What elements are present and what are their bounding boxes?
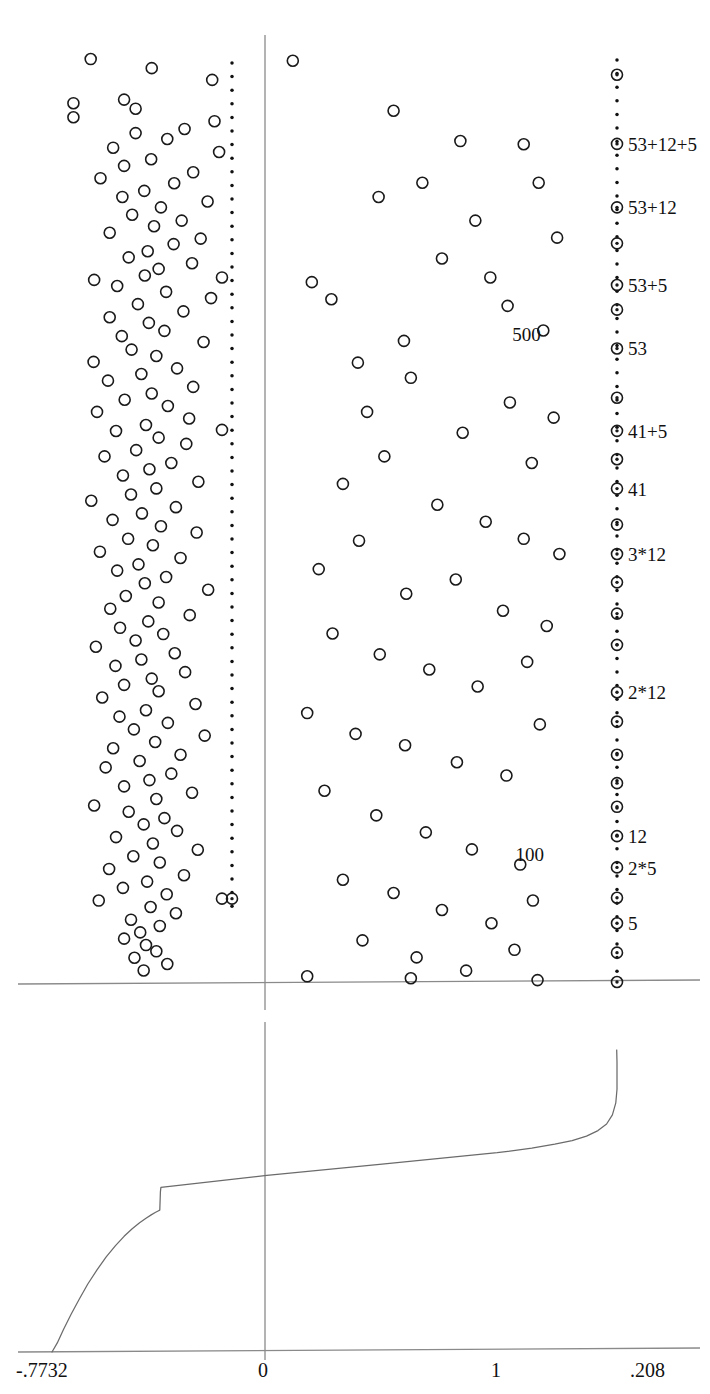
data-point bbox=[188, 381, 199, 392]
scatter-right-label-9: 2*5 bbox=[628, 859, 657, 878]
data-point bbox=[470, 215, 481, 226]
left-dotted-line-dot bbox=[230, 700, 234, 704]
data-point bbox=[138, 965, 149, 976]
data-point bbox=[504, 397, 515, 408]
data-point bbox=[139, 185, 150, 196]
data-point bbox=[102, 375, 113, 386]
data-point bbox=[139, 578, 150, 589]
data-point bbox=[126, 489, 137, 500]
x-axis-tick-label-2: 1 bbox=[491, 1360, 501, 1380]
left-dotted-line-dot bbox=[230, 75, 234, 79]
marked-data-point-center bbox=[615, 347, 618, 350]
x-axis-tick-label-1: 0 bbox=[258, 1360, 268, 1380]
left-dotted-line-dot bbox=[230, 510, 234, 514]
data-point bbox=[146, 673, 157, 684]
marked-data-point-center bbox=[615, 206, 618, 209]
data-point bbox=[371, 810, 382, 821]
data-point bbox=[151, 794, 162, 805]
data-point bbox=[202, 196, 213, 207]
data-point bbox=[552, 232, 563, 243]
chart-canvas bbox=[0, 0, 710, 1394]
left-dotted-line-dot bbox=[230, 456, 234, 460]
data-point bbox=[68, 98, 79, 109]
data-point bbox=[119, 94, 130, 105]
data-point bbox=[554, 548, 565, 559]
data-point bbox=[153, 263, 164, 274]
data-point bbox=[135, 927, 146, 938]
data-point bbox=[119, 781, 130, 792]
data-point bbox=[175, 749, 186, 760]
data-point bbox=[159, 325, 170, 336]
scatter-inner-label-0: 500 bbox=[512, 325, 541, 344]
marked-data-point-center bbox=[615, 896, 618, 899]
data-point bbox=[99, 451, 110, 462]
data-point bbox=[354, 535, 365, 546]
right-dotted-line-dot bbox=[615, 820, 619, 824]
data-point bbox=[105, 603, 116, 614]
data-point bbox=[374, 649, 385, 660]
data-point bbox=[214, 147, 225, 158]
marked-data-point-center bbox=[615, 242, 618, 245]
right-dotted-line-dot bbox=[615, 888, 619, 892]
data-point bbox=[111, 832, 122, 843]
data-point bbox=[187, 787, 198, 798]
scatter-right-label-2: 53+5 bbox=[628, 276, 667, 295]
left-dotted-line-dot bbox=[230, 265, 234, 269]
right-dotted-line-dot bbox=[615, 357, 619, 361]
right-dotted-line-dot bbox=[615, 385, 619, 389]
data-point bbox=[451, 757, 462, 768]
data-point bbox=[417, 177, 428, 188]
left-dotted-line-dot bbox=[230, 864, 234, 868]
data-point bbox=[162, 959, 173, 970]
data-point bbox=[522, 656, 533, 667]
data-point bbox=[184, 610, 195, 621]
data-point bbox=[193, 476, 204, 487]
data-point bbox=[89, 274, 100, 285]
data-point bbox=[357, 935, 368, 946]
data-point bbox=[424, 664, 435, 675]
right-line-terminal-point-center bbox=[615, 980, 618, 983]
data-point bbox=[162, 717, 173, 728]
data-point bbox=[199, 730, 210, 741]
data-point bbox=[153, 686, 164, 697]
data-point bbox=[184, 413, 195, 424]
data-point bbox=[139, 270, 150, 281]
right-dotted-line-dot bbox=[615, 58, 619, 62]
marked-data-point-center bbox=[615, 487, 618, 490]
right-dotted-line-dot bbox=[615, 126, 619, 130]
data-point bbox=[123, 533, 134, 544]
marked-data-point-center bbox=[615, 308, 618, 311]
data-point bbox=[181, 438, 192, 449]
right-dotted-line-dot bbox=[615, 629, 619, 633]
data-point bbox=[146, 388, 157, 399]
data-point bbox=[117, 882, 128, 893]
data-point bbox=[97, 692, 108, 703]
left-dotted-line-dot bbox=[230, 61, 234, 65]
left-dotted-line-dot bbox=[230, 211, 234, 215]
data-point bbox=[400, 740, 411, 751]
data-point bbox=[129, 952, 140, 963]
marked-data-point-center bbox=[615, 691, 618, 694]
data-point bbox=[548, 412, 559, 423]
marked-data-point-center bbox=[615, 781, 618, 784]
data-point bbox=[151, 483, 162, 494]
left-dotted-line-dot bbox=[230, 197, 234, 201]
data-point bbox=[153, 597, 164, 608]
data-point bbox=[158, 629, 169, 640]
left-dotted-line-dot bbox=[230, 537, 234, 541]
left-line-terminal-point-center bbox=[230, 897, 233, 900]
data-point bbox=[116, 331, 127, 342]
data-point bbox=[138, 819, 149, 830]
marked-data-point-center bbox=[615, 396, 618, 399]
data-point bbox=[162, 401, 173, 412]
data-point bbox=[180, 667, 191, 678]
data-point bbox=[533, 177, 544, 188]
left-dotted-line-dot bbox=[230, 224, 234, 228]
data-point bbox=[147, 838, 158, 849]
data-point bbox=[123, 252, 134, 263]
data-point bbox=[126, 344, 137, 355]
data-point bbox=[140, 705, 151, 716]
data-point bbox=[172, 363, 183, 374]
marked-data-point-center bbox=[615, 142, 618, 145]
data-point bbox=[136, 508, 147, 519]
